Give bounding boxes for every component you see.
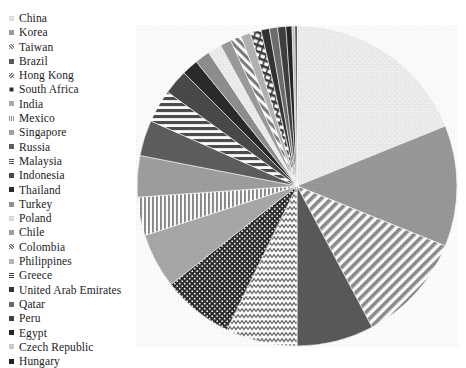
legend-item-label: Malaysia (19, 154, 62, 168)
legend-item-label: Russia (19, 140, 50, 154)
legend-item[interactable]: Egypt (6, 326, 132, 340)
legend-swatch-icon (9, 273, 14, 278)
legend-item-label: Philippines (19, 254, 72, 268)
legend-item-label: Colombia (19, 240, 65, 254)
legend-swatch-icon (9, 144, 14, 149)
legend-swatch-icon (9, 116, 14, 121)
pie-chart (136, 25, 458, 347)
legend-item[interactable]: South Africa (6, 82, 132, 96)
legend-item[interactable]: Philippines (6, 254, 132, 268)
legend-item-label: Czech Republic (19, 340, 94, 354)
legend-item-label: Korea (19, 25, 48, 39)
legend-item[interactable]: Colombia (6, 240, 132, 254)
legend-item-label: Greece (19, 268, 52, 282)
legend-swatch-icon (9, 287, 14, 292)
legend-item[interactable]: Peru (6, 311, 132, 325)
legend-item-label: Singapore (19, 125, 67, 139)
legend-swatch-icon (9, 316, 14, 321)
legend-item[interactable]: Mexico (6, 111, 132, 125)
legend-swatch-icon (9, 230, 14, 235)
legend-swatch-icon (9, 159, 14, 164)
pie-svg (136, 25, 458, 347)
legend-item[interactable]: Hong Kong (6, 68, 132, 82)
legend-item[interactable]: Taiwan (6, 40, 132, 54)
legend-item-label: South Africa (19, 82, 79, 96)
legend-item[interactable]: Korea (6, 25, 132, 39)
legend-item[interactable]: Thailand (6, 183, 132, 197)
legend-swatch-icon (9, 187, 14, 192)
legend-item[interactable]: China (6, 11, 132, 25)
legend-swatch-icon (9, 259, 14, 264)
legend-item-label: Taiwan (19, 40, 53, 54)
legend-item[interactable]: Russia (6, 140, 132, 154)
legend-swatch-icon (9, 30, 14, 35)
legend-swatch-icon (9, 87, 14, 92)
legend-item-label: Indonesia (19, 168, 65, 182)
legend-item[interactable]: Qatar (6, 297, 132, 311)
legend-item-label: Qatar (19, 297, 45, 311)
legend-item[interactable]: Hungary (6, 354, 132, 368)
pie-legend: ChinaKoreaTaiwanBrazilHong KongSouth Afr… (6, 11, 132, 368)
legend-item[interactable]: Indonesia (6, 168, 132, 182)
legend-swatch-icon (9, 173, 14, 178)
legend-swatch-icon (9, 16, 14, 21)
legend-swatch-icon (9, 59, 14, 64)
legend-swatch-icon (9, 359, 14, 364)
legend-item[interactable]: Greece (6, 268, 132, 282)
legend-item-label: China (19, 11, 47, 25)
legend-item[interactable]: Malaysia (6, 154, 132, 168)
legend-item[interactable]: Poland (6, 211, 132, 225)
legend-item-label: Thailand (19, 183, 61, 197)
legend-item-label: India (19, 97, 43, 111)
legend-item-label: Chile (19, 225, 44, 239)
legend-item[interactable]: Brazil (6, 54, 132, 68)
legend-item-label: Peru (19, 311, 40, 325)
legend-swatch-icon (9, 44, 14, 49)
legend-item-label: Egypt (19, 326, 47, 340)
legend-item-label: United Arab Emirates (19, 283, 121, 297)
legend-item-label: Brazil (19, 54, 48, 68)
legend-item-label: Turkey (19, 197, 52, 211)
legend-swatch-icon (9, 216, 14, 221)
legend-swatch-icon (9, 244, 14, 249)
legend-item[interactable]: Czech Republic (6, 340, 132, 354)
legend-item[interactable]: Chile (6, 225, 132, 239)
legend-swatch-icon (9, 101, 14, 106)
legend-swatch-icon (9, 202, 14, 207)
legend-item-label: Hong Kong (19, 68, 74, 82)
legend-item-label: Mexico (19, 111, 55, 125)
legend-item[interactable]: Singapore (6, 125, 132, 139)
legend-swatch-icon (9, 302, 14, 307)
legend-item[interactable]: Turkey (6, 197, 132, 211)
legend-item-label: Hungary (19, 354, 60, 368)
legend-swatch-icon (9, 130, 14, 135)
legend-item[interactable]: India (6, 97, 132, 111)
legend-item[interactable]: United Arab Emirates (6, 283, 132, 297)
legend-swatch-icon (9, 330, 14, 335)
legend-swatch-icon (9, 344, 14, 349)
legend-swatch-icon (9, 73, 14, 78)
legend-item-label: Poland (19, 211, 52, 225)
